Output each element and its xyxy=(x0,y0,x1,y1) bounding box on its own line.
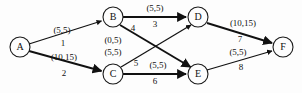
edge-d-f-capacity: (10,15) xyxy=(230,18,256,28)
edge-a-b: (5,5) 1 xyxy=(29,21,102,48)
edge-e-f: (5,5) 8 xyxy=(207,47,272,72)
edge-e-f-capacity: (5,5) xyxy=(229,47,246,57)
edge-b-d-capacity: (5,5) xyxy=(146,3,163,13)
edge-b-e: (0,5) 4 xyxy=(104,23,190,67)
graph-canvas: (5,5) 1 (10,15) 2 (5,5) 3 (0,5) 4 (5,5) … xyxy=(0,0,302,93)
node-a[interactable]: A xyxy=(10,37,30,57)
edge-b-d-number: 3 xyxy=(153,19,158,29)
edge-c-d: (5,5) 5 xyxy=(104,25,191,68)
node-d[interactable]: D xyxy=(188,7,208,27)
edge-a-b-number: 1 xyxy=(61,38,66,48)
flow-network-diagram: (5,5) 1 (10,15) 2 (5,5) 3 (0,5) 4 (5,5) … xyxy=(0,0,302,93)
edge-a-c-number: 2 xyxy=(62,68,67,78)
node-b[interactable]: B xyxy=(103,7,123,27)
node-f-label: F xyxy=(280,41,286,52)
node-c[interactable]: C xyxy=(103,64,123,84)
node-e-label: E xyxy=(195,68,201,79)
edge-d-f: (10,15) 7 xyxy=(207,18,272,44)
edge-a-b-capacity: (5,5) xyxy=(53,25,70,35)
edge-c-e-number: 6 xyxy=(153,76,158,86)
node-d-label: D xyxy=(194,11,201,22)
edge-a-c-capacity: (10,15) xyxy=(51,52,77,62)
edge-c-e-capacity: (5,5) xyxy=(149,60,166,70)
node-f[interactable]: F xyxy=(273,37,293,57)
edge-b-e-capacity: (0,5) xyxy=(104,35,121,45)
edge-a-c: (10,15) 2 xyxy=(29,51,102,78)
edge-c-d-number: 5 xyxy=(134,58,139,68)
node-e[interactable]: E xyxy=(188,64,208,84)
node-c-label: C xyxy=(110,68,117,79)
node-a-label: A xyxy=(16,41,24,52)
edge-e-f-number: 8 xyxy=(239,62,244,72)
edge-b-e-number: 4 xyxy=(131,23,136,33)
edge-c-e: (5,5) 6 xyxy=(123,60,186,86)
edge-c-d-capacity: (5,5) xyxy=(104,47,121,57)
node-b-label: B xyxy=(110,11,117,22)
edge-d-f-number: 7 xyxy=(238,34,243,44)
